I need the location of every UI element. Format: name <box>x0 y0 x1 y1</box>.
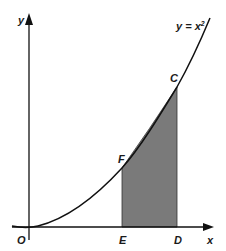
y-axis-label: y <box>17 14 25 26</box>
origin-label: O <box>17 234 26 246</box>
point-e-label: E <box>119 234 127 246</box>
x-axis-label: x <box>206 234 214 246</box>
diagram-canvas: y = x2 y x O C F E D <box>0 0 226 251</box>
point-d-label: D <box>174 234 182 246</box>
parabola-area-diagram: y = x2 y x O C F E D <box>0 0 226 251</box>
point-c-label: C <box>170 72 179 84</box>
x-axis-arrow-icon <box>203 223 214 231</box>
curve-label: y = x2 <box>175 20 205 32</box>
y-axis-arrow-icon <box>25 13 33 25</box>
parabola-curve <box>12 18 210 228</box>
point-f-label: F <box>118 153 125 165</box>
